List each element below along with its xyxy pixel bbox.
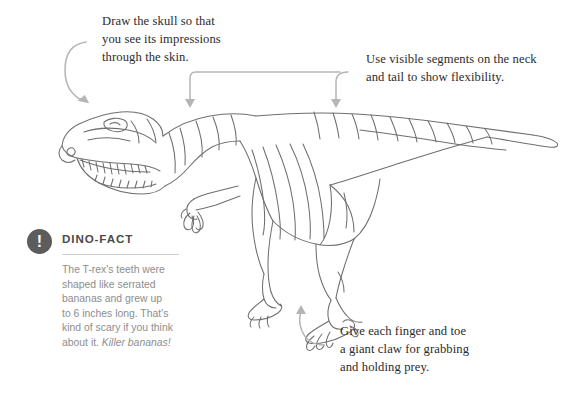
exclamation-glyph: ! <box>27 229 52 254</box>
dino-fact-kicker: Killer bananas! <box>102 337 171 348</box>
arrow-segments-path-left <box>190 72 340 100</box>
arrow-skull-path <box>65 42 86 101</box>
arrowhead-tail <box>331 99 341 108</box>
hip-contour-1 <box>320 185 332 245</box>
neck-top-outline <box>163 114 256 136</box>
arm-lower <box>196 196 240 210</box>
back-outline <box>256 113 533 135</box>
skull-top-outline <box>62 112 163 146</box>
body-contour-4 <box>290 144 310 239</box>
callout-skull: Draw the skull so that you see its impre… <box>88 12 282 70</box>
arrowhead-neck <box>185 99 195 108</box>
tooth-l6 <box>135 181 137 188</box>
hip-front-outline <box>354 179 380 239</box>
far-leg-back <box>268 221 273 292</box>
tail-segment-7 <box>447 123 455 143</box>
arrow-segments-path-right <box>336 72 348 100</box>
tooth-l2 <box>103 177 105 184</box>
tooth-u6 <box>117 164 119 174</box>
callout-segments-text: Use visible segments on the neck and tai… <box>366 50 584 86</box>
near-thigh-front <box>316 244 331 300</box>
dino-fact-box: ! DINO-FACT The T-rex's teeth were shape… <box>27 227 179 351</box>
exclamation-icon: ! <box>27 229 52 254</box>
tooth-l5 <box>127 181 129 188</box>
neck-segment-2 <box>196 121 202 157</box>
far-shin <box>263 274 277 308</box>
tooth-u3 <box>96 162 98 172</box>
neck-segment-1 <box>180 128 185 165</box>
near-toe-2 <box>316 334 324 349</box>
wrist-detail <box>181 209 186 218</box>
tooth-u7 <box>124 164 126 174</box>
dino-fact-header: ! DINO-FACT <box>27 227 179 257</box>
callout-segments: Use visible segments on the neck and tai… <box>352 50 584 92</box>
tail-segment-8 <box>466 126 473 143</box>
far-toe-1 <box>250 317 254 327</box>
illustration-page: Draw the skull so that you see its impre… <box>0 0 588 395</box>
tail-under-outline <box>330 137 487 185</box>
tail-inner-ridge <box>360 130 506 150</box>
tail-segment-6 <box>428 121 436 142</box>
callout-claws-text: Give each finger and toe a giant claw fo… <box>340 322 540 377</box>
far-toe-2 <box>259 317 261 328</box>
neck-segment-0 <box>169 133 175 173</box>
near-shin-back <box>336 298 362 322</box>
tooth-u1 <box>82 159 84 167</box>
dino-fact-body-text: The T-rex's teeth were shaped like serra… <box>62 264 173 348</box>
tail-segment-3 <box>371 115 378 140</box>
tail-segment-0 <box>314 112 320 139</box>
hip-contour-2 <box>344 193 347 228</box>
callout-claws: Give each finger and toe a giant claw fo… <box>326 322 540 382</box>
tail-segment-9 <box>485 129 492 144</box>
thigh-back-contour <box>330 185 354 232</box>
tooth-l8 <box>151 181 152 187</box>
tail-tip <box>487 135 558 147</box>
knee-contour <box>338 272 344 292</box>
tooth-l1 <box>95 175 97 181</box>
tooth-l4 <box>119 180 121 187</box>
nostril <box>67 148 75 156</box>
arm-upper <box>194 186 238 199</box>
belly-outline <box>273 221 354 245</box>
chest-outline <box>240 141 273 221</box>
eye-pupil <box>110 123 120 125</box>
skull-ridge-1 <box>84 128 156 143</box>
arrowhead-foot <box>296 305 306 314</box>
tail-segment-4 <box>390 117 398 141</box>
dino-fact-divider <box>62 254 179 255</box>
near-thigh-back <box>336 239 354 298</box>
dino-fact-title: DINO-FACT <box>62 232 133 245</box>
arrow-claws-path <box>300 312 324 345</box>
tooth-u4 <box>103 163 105 173</box>
neck-segment-4 <box>231 115 236 145</box>
tail-segment-2 <box>352 114 359 139</box>
callout-skull-text: Draw the skull so that you see its impre… <box>102 12 282 67</box>
skull-ridge-2 <box>88 138 130 141</box>
tooth-l3 <box>111 179 113 186</box>
tooth-u2 <box>89 161 91 170</box>
dino-fact-body: The T-rex's teeth were shaped like serra… <box>62 263 182 351</box>
tail-segment-1 <box>333 113 339 138</box>
tail-segment-5 <box>409 119 417 142</box>
